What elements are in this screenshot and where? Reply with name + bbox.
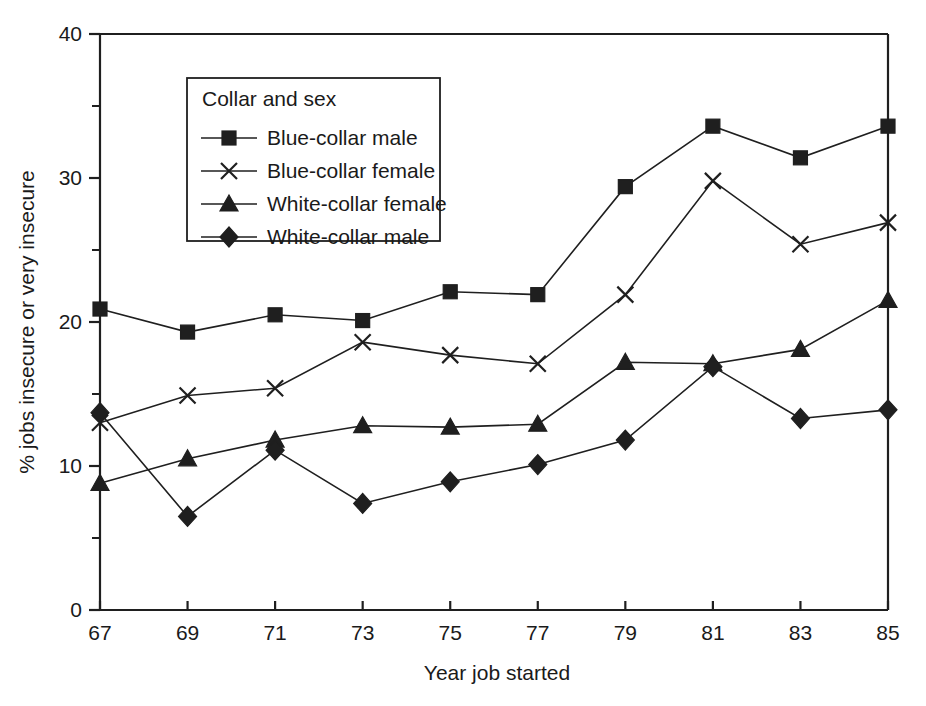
series-line (100, 367, 888, 517)
data-point (793, 151, 807, 165)
x-tick-label: 71 (263, 621, 286, 644)
data-point (93, 302, 107, 316)
legend-label: Blue-collar female (267, 159, 435, 182)
y-tick-label: 20 (59, 310, 82, 333)
data-point (618, 180, 632, 194)
x-tick-label: 83 (789, 621, 812, 644)
legend-title: Collar and sex (202, 87, 337, 110)
x-tick-label: 75 (439, 621, 462, 644)
data-point (879, 400, 897, 420)
x-tick-label: 81 (701, 621, 724, 644)
data-point (529, 415, 547, 431)
data-point (617, 287, 633, 303)
data-point (443, 285, 457, 299)
data-point (181, 325, 195, 339)
data-point (529, 455, 547, 475)
data-point (792, 236, 808, 252)
legend-label: White-collar male (267, 225, 429, 248)
y-tick-label: 30 (59, 166, 82, 189)
line-chart: 01020304067697173757779818385 Collar and… (0, 0, 926, 706)
data-point (531, 288, 545, 302)
data-point (791, 340, 809, 356)
x-tick-label: 67 (88, 621, 111, 644)
y-tick-label: 0 (70, 598, 82, 621)
series-diamond (91, 357, 897, 527)
data-point (616, 353, 634, 369)
x-tick-label: 77 (526, 621, 549, 644)
data-point (441, 472, 459, 492)
x-axis-title: Year job started (424, 661, 570, 684)
data-point (616, 430, 634, 450)
data-point (705, 173, 721, 189)
data-point (356, 314, 370, 328)
x-tick-label: 85 (876, 621, 899, 644)
data-point (881, 119, 895, 133)
x-tick-label: 69 (176, 621, 199, 644)
y-axis-title: % jobs insecure or very insecure (15, 170, 38, 473)
data-point (704, 357, 722, 377)
data-point (706, 119, 720, 133)
series-triangle (91, 291, 897, 490)
x-tick-label: 79 (614, 621, 637, 644)
x-tick-label: 73 (351, 621, 374, 644)
chart-legend: Collar and sexBlue-collar maleBlue-colla… (187, 78, 447, 248)
y-tick-label: 10 (59, 454, 82, 477)
data-point (355, 334, 371, 350)
y-tick-label: 40 (59, 22, 82, 45)
data-point (879, 291, 897, 307)
data-point (354, 493, 372, 513)
legend-label: White-collar female (267, 192, 447, 215)
data-point (791, 408, 809, 428)
chart-figure: 01020304067697173757779818385 Collar and… (0, 0, 926, 706)
legend-label: Blue-collar male (267, 126, 418, 149)
data-point (354, 417, 372, 433)
legend-sample-marker (222, 131, 236, 145)
series-line (100, 300, 888, 483)
data-point (268, 308, 282, 322)
